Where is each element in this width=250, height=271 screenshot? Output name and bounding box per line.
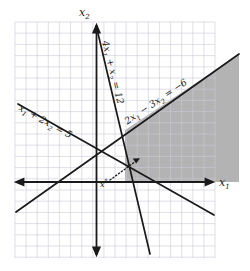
x-axis-label: x1: [219, 176, 230, 191]
linear-programming-plot: [0, 0, 250, 271]
y-axis-label: x2: [79, 6, 90, 21]
x-axis-arrow-left: [16, 179, 24, 185]
y-axis-arrow-up: [93, 25, 99, 33]
y-axis-arrow-down: [93, 248, 99, 256]
optimum-label: x*: [100, 177, 108, 189]
